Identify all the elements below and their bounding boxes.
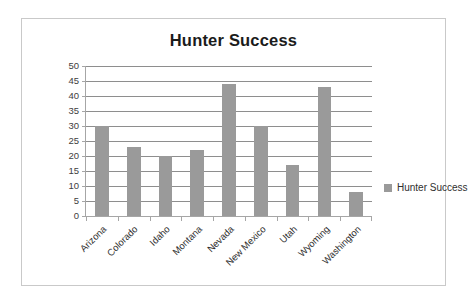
bar[interactable] [318, 87, 332, 216]
legend-label: Hunter Success [397, 182, 468, 193]
x-axis-tick-mark [86, 216, 87, 221]
y-axis-tick-label: 25 [68, 136, 79, 146]
plot-region: 50454035302520151050 ArizonaColoradoIdah… [58, 66, 372, 216]
legend-swatch-icon [384, 184, 392, 192]
bar-slot [86, 66, 118, 216]
x-axis-tick-mark [213, 216, 214, 221]
bar-series [86, 66, 372, 216]
y-axis-tick-label: 0 [74, 211, 79, 221]
bar-slot [245, 66, 277, 216]
x-label-slot: New Mexico [244, 222, 276, 282]
x-axis-tick-mark [118, 216, 119, 221]
y-axis-tick-label: 50 [68, 61, 79, 71]
bar-slot [118, 66, 150, 216]
x-label-slot: Washington [340, 222, 372, 282]
bar[interactable] [349, 192, 363, 216]
bar-slot [308, 66, 340, 216]
chart-legend: Hunter Success [384, 182, 468, 193]
x-axis-tick-mark [150, 216, 151, 221]
bar-slot [181, 66, 213, 216]
x-axis-tick-mark [245, 216, 246, 221]
bar-slot [213, 66, 245, 216]
chart-container: Hunter Success 50454035302520151050 Ariz… [21, 18, 446, 286]
x-axis-category-labels: ArizonaColoradoIdahoMontanaNevadaNew Mex… [85, 222, 372, 282]
x-axis-tick-mark [277, 216, 278, 221]
y-axis-tick-label: 5 [74, 196, 79, 206]
y-axis-tick-label: 40 [68, 91, 79, 101]
x-axis-category-label: Idaho [148, 224, 172, 248]
bar-slot [150, 66, 182, 216]
x-axis-category-label: Utah [278, 224, 299, 245]
y-axis-tick-labels: 50454035302520151050 [58, 66, 82, 216]
x-label-slot: Montana [181, 222, 213, 282]
x-label-slot: Colorado [117, 222, 149, 282]
bar[interactable] [286, 165, 300, 216]
x-axis-tick-mark [308, 216, 309, 221]
plot-area [85, 66, 372, 216]
bar[interactable] [254, 126, 268, 216]
y-axis-tick-label: 45 [68, 76, 79, 86]
x-axis-tick-mark [371, 216, 372, 221]
y-axis-tick-label: 15 [68, 166, 79, 176]
x-axis-category-label: Arizona [78, 224, 107, 253]
bar-slot [340, 66, 372, 216]
chart-title: Hunter Success [22, 31, 445, 50]
bar-slot [277, 66, 309, 216]
x-axis-tick-mark [181, 216, 182, 221]
bar[interactable] [95, 126, 109, 216]
y-axis-tick-label: 35 [68, 106, 79, 116]
y-axis-tick-label: 10 [68, 181, 79, 191]
bar[interactable] [127, 147, 141, 216]
y-axis-tick-label: 20 [68, 151, 79, 161]
bar[interactable] [222, 84, 236, 216]
bar[interactable] [190, 150, 204, 216]
x-axis-tick-mark [340, 216, 341, 221]
bar[interactable] [159, 156, 173, 216]
y-axis-tick-label: 30 [68, 121, 79, 131]
